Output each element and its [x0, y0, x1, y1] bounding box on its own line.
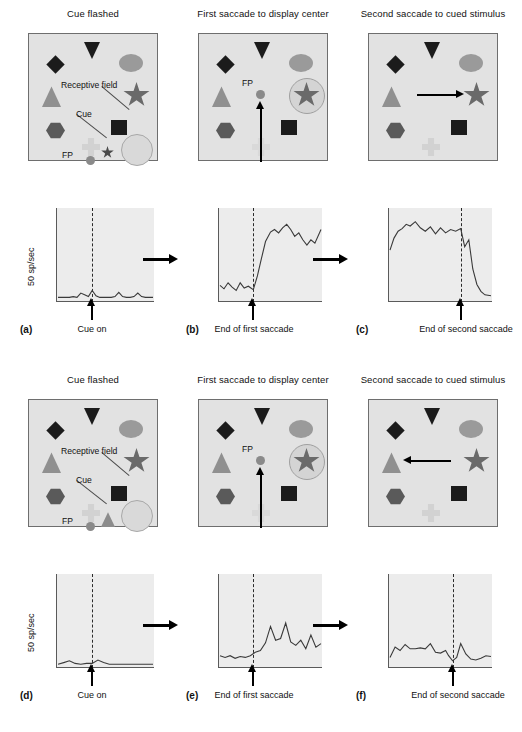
shape-star — [463, 448, 490, 474]
fixation-point-dot — [256, 90, 265, 99]
trace-svg-d — [56, 574, 154, 668]
plot-wrap-e: (e) End of first saccade — [178, 574, 348, 682]
shape-square — [451, 120, 467, 135]
y-axis-label-d: 50 sp/sec — [26, 613, 36, 652]
saccade-arrow-shaft — [260, 108, 262, 162]
shape-diamond — [386, 421, 404, 439]
stimulus-display-c — [368, 33, 498, 161]
shape-triangle-down — [84, 408, 100, 425]
event-caption-b: End of first saccade — [212, 324, 296, 335]
flow-arrow-head — [339, 620, 348, 630]
shape-diamond — [386, 55, 404, 73]
saccade-arrow-head — [456, 90, 464, 98]
fp-label: FP — [242, 444, 253, 454]
fixation-point-dot — [256, 456, 265, 465]
event-arrow-shaft-a — [91, 304, 93, 320]
panel-letter-b: (b) — [186, 324, 199, 335]
plot-wrap-f: (f) End of second saccade — [348, 574, 518, 682]
saccade-arrow-head — [403, 456, 411, 464]
event-arrow-shaft-d — [91, 670, 93, 686]
shape-ellipse — [119, 54, 143, 72]
shape-triangle-up — [42, 86, 61, 107]
flow-arrow-head — [169, 254, 178, 264]
trace-svg-f — [388, 574, 492, 668]
stimulus-display-f — [368, 399, 498, 527]
cue-label: Cue — [76, 109, 92, 119]
panel-letter-f: (f) — [356, 690, 366, 701]
cue-star — [101, 146, 114, 159]
trace-svg-e — [218, 574, 322, 668]
receptive-field-circle — [121, 500, 153, 532]
shape-diamond — [46, 421, 64, 439]
event-caption-f: End of second saccade — [410, 690, 506, 701]
panel-a-title: Cue flashed — [8, 8, 178, 20]
shape-ellipse — [289, 420, 313, 438]
panel-letter-d: (d) — [20, 690, 33, 701]
event-caption-e: End of first saccade — [212, 690, 296, 701]
flow-arrow-shaft — [313, 624, 339, 627]
shape-ellipse — [459, 420, 483, 438]
shape-triangle-down — [84, 42, 100, 59]
receptive-field-label: Receptive field — [61, 80, 117, 90]
shape-cross — [82, 138, 100, 156]
panel-letter-e: (e) — [186, 690, 198, 701]
flow-arrow-head — [339, 254, 348, 264]
shape-ellipse — [459, 54, 483, 72]
event-arrow-head-c — [456, 298, 464, 306]
panel-letter-a: (a) — [20, 324, 32, 335]
shape-cross — [82, 504, 100, 522]
figure-row-bottom: Cue flashed Receptive field Cue FP 50 sp… — [0, 366, 522, 732]
event-arrow-head-b — [248, 298, 256, 306]
trace-svg-a — [56, 208, 154, 302]
shape-star — [123, 448, 150, 474]
cue-label: Cue — [76, 475, 92, 485]
shape-triangle-up — [382, 452, 401, 473]
plot-wrap-d: 50 sp/sec (d) Cue on — [8, 574, 178, 682]
spike-rate-plot-b — [218, 208, 322, 302]
cue-triangle — [101, 512, 115, 527]
shape-triangle-down — [254, 408, 270, 425]
plot-wrap-b: (b) End of first saccade — [178, 208, 348, 316]
shape-hexagon — [46, 122, 65, 139]
shape-cross — [422, 504, 440, 522]
event-arrow-head-a — [87, 298, 95, 306]
event-caption-d: Cue on — [60, 690, 124, 701]
stimulus-display-d — [28, 399, 158, 527]
trace-svg-b — [218, 208, 322, 302]
plot-wrap-a: 50 sp/sec (a) Cue on — [8, 208, 178, 316]
event-arrow-shaft-b — [252, 304, 254, 320]
shape-hexagon — [216, 488, 235, 505]
fixation-point-dot — [86, 156, 95, 165]
fp-label: FP — [62, 150, 73, 160]
event-caption-a: Cue on — [60, 324, 124, 335]
spike-rate-plot-a — [56, 208, 154, 302]
shape-triangle-down — [424, 42, 440, 59]
spike-rate-plot-d — [56, 574, 154, 668]
spike-rate-plot-e — [218, 574, 322, 668]
fp-label: FP — [62, 516, 73, 526]
y-axis-label-a: 50 sp/sec — [26, 247, 36, 286]
event-arrow-shaft-e — [252, 670, 254, 686]
fp-label: FP — [242, 78, 253, 88]
shape-triangle-up — [42, 452, 61, 473]
trace-svg-c — [388, 208, 492, 302]
flow-arrow-head — [169, 620, 178, 630]
panel-letter-c: (c) — [356, 324, 368, 335]
flow-arrow-shaft — [143, 258, 169, 261]
shape-triangle-down — [424, 408, 440, 425]
saccade-arrow-shaft — [417, 94, 457, 96]
event-caption-c: End of second saccade — [418, 324, 514, 335]
plot-wrap-c: (c) End of second saccade — [348, 208, 518, 316]
shape-hexagon — [216, 122, 235, 139]
shape-hexagon — [386, 488, 405, 505]
shape-star — [123, 82, 150, 108]
shape-cross — [422, 138, 440, 156]
shape-diamond — [46, 55, 64, 73]
shape-square — [111, 486, 127, 501]
receptive-field-circle — [121, 134, 153, 166]
panel-e-title: First saccade to display center — [178, 374, 348, 386]
flow-arrow-shaft — [143, 624, 169, 627]
shape-triangle-up — [382, 86, 401, 107]
event-arrow-head-d — [87, 664, 95, 672]
panel-d-title: Cue flashed — [8, 374, 178, 386]
